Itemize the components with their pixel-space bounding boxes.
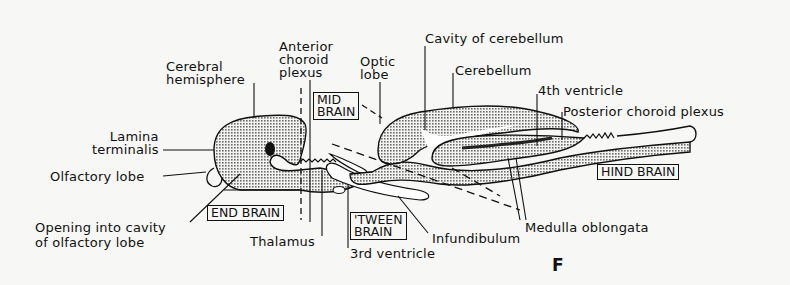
label-optic-lobe: Optic lobe: [360, 55, 395, 81]
pineal-small-oval: [333, 187, 345, 194]
label-cavity-of-cerebellum: Cavity of cerebellum: [425, 32, 564, 45]
figure-letter: F: [552, 255, 564, 275]
region-mid-brain: MID BRAIN: [313, 92, 359, 120]
posterior-choroid-plexus-wave: [584, 133, 614, 138]
label-cerebellum: Cerebellum: [455, 64, 532, 77]
label-cerebral-hemisphere: Cerebral hemisphere: [166, 60, 245, 86]
label-posterior-choroid-plexus: Posterior choroid plexus: [563, 105, 724, 118]
label-opening-into-cavity: Opening into cavity of olfactory lobe: [35, 220, 166, 250]
label-olfactory-lobe: Olfactory lobe: [50, 170, 144, 183]
region-hind-brain: HIND BRAIN: [597, 164, 679, 180]
label-lamina-terminalis: Lamina terminalis: [92, 130, 159, 156]
label-third-ventricle: 3rd ventricle: [350, 247, 435, 260]
ventricle-spot: [265, 142, 275, 156]
region-tween-brain: 'TWEEN BRAIN: [350, 212, 407, 240]
label-fourth-ventricle: 4th ventricle: [538, 84, 623, 97]
label-anterior-choroid-plexus: Anterior choroid plexus: [279, 40, 333, 79]
label-thalamus: Thalamus: [250, 235, 315, 248]
label-infundibulum: Infundibulum: [432, 232, 520, 245]
region-end-brain: END BRAIN: [207, 205, 284, 221]
label-medulla-oblongata: Medulla oblongata: [525, 221, 649, 234]
anterior-choroid-plexus-wave: [300, 159, 336, 162]
